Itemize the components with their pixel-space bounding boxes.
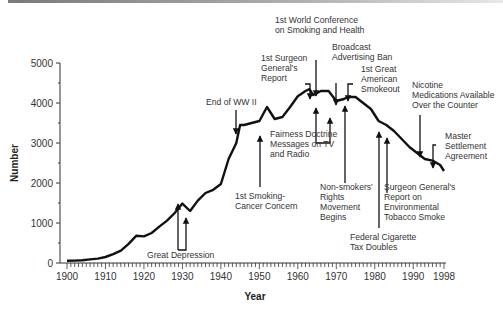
label-surgeon-general-3: Report — [261, 73, 287, 83]
y-tick-label: 5000 — [31, 58, 54, 69]
label-end-ww2: End of WW II — [206, 97, 257, 107]
label-smoking-cancer: 1st Smoking- — [235, 191, 285, 201]
annotation-labels: Great Depression End of WW II 1st Smokin… — [147, 15, 495, 260]
x-axis-title: Year — [244, 291, 265, 302]
label-fairness: Fairness Doctrine — [270, 129, 338, 139]
chart: 010002000300040005000 Number 19001910192… — [0, 0, 503, 311]
label-nonsmokers-3: Movement — [320, 202, 361, 212]
label-world-conference-2: on Smoking and Health — [275, 25, 365, 35]
label-smokeout-2: American — [361, 74, 398, 84]
label-nicotine-3: Over the Counter — [412, 100, 478, 110]
label-fairness-2: Messages on TV — [270, 139, 335, 149]
y-tick-label: 3000 — [31, 138, 54, 149]
x-tick-label: 1900 — [56, 271, 79, 282]
label-surgeon-general-2: General's — [261, 63, 298, 73]
x-tick-label: 1980 — [364, 271, 387, 282]
label-ets-4: Tobacco Smoke — [384, 212, 445, 222]
label-smokeout-3: Smokeout — [361, 84, 400, 94]
y-tick-label: 2000 — [31, 178, 54, 189]
label-nicotine-2: Medications Available — [412, 90, 495, 100]
label-tax-2: Tax Doubles — [350, 242, 397, 252]
label-nonsmokers: Non-smokers' — [320, 182, 373, 192]
x-tick-label: 1930 — [171, 271, 194, 282]
label-ets: Surgeon General's — [384, 182, 455, 192]
label-nonsmokers-4: Begins — [320, 212, 346, 222]
y-tick-label: 1000 — [31, 218, 54, 229]
y-axis-title: Number — [9, 144, 20, 182]
label-world-conference: 1st World Conference — [275, 15, 358, 25]
label-smokeout: 1st Great — [361, 64, 397, 74]
y-tick-label: 0 — [47, 258, 53, 269]
x-tick-label: 1990 — [402, 271, 425, 282]
label-msa: Master — [445, 131, 471, 141]
x-tick-label: 1910 — [94, 271, 117, 282]
x-tick-label: 1998 — [433, 271, 456, 282]
label-fairness-3: and Radio — [270, 149, 309, 159]
label-tax: Federal Cigarette — [350, 232, 417, 242]
x-tick-label: 1970 — [325, 271, 348, 282]
label-msa-3: Agreement — [445, 151, 488, 161]
label-ets-2: Report on — [384, 192, 422, 202]
x-tick-label: 1940 — [210, 271, 233, 282]
x-tick-label: 1960 — [287, 271, 310, 282]
x-tick-label: 1950 — [248, 271, 271, 282]
label-msa-2: Settlement — [445, 141, 487, 151]
x-axis: 1900191019201930194019501960197019801990… — [56, 263, 456, 302]
label-ets-3: Environmental — [384, 202, 439, 212]
label-great-depression: Great Depression — [147, 250, 215, 260]
label-nonsmokers-2: Rights — [320, 192, 344, 202]
label-broadcast-2: Advertising Ban — [332, 52, 392, 62]
label-broadcast: Broadcast — [332, 42, 371, 52]
y-tick-label: 4000 — [31, 98, 54, 109]
label-nicotine: Nicotine — [412, 80, 443, 90]
label-smoking-cancer-2: Cancer Concern — [235, 201, 298, 211]
y-axis: 010002000300040005000 Number — [9, 58, 60, 269]
label-surgeon-general: 1st Surgeon — [261, 53, 308, 63]
x-tick-label: 1920 — [133, 271, 156, 282]
